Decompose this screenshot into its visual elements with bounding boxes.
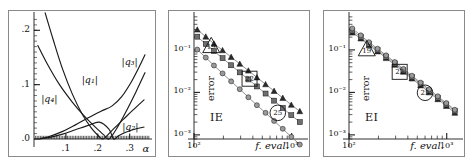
panel-c-xaxis-label: f. eval. [410,141,444,151]
panel-b-annotation-22: 22 [245,75,254,83]
panel-c-xtick-1: 10³ [440,142,453,150]
curve-label-q1: |q₁| [82,75,98,85]
panel-c-ytick-2: 10⁻³ [328,130,346,138]
panel-a-ytick-0: .0 [21,134,30,143]
panel-b-tag: IE [210,112,223,123]
panel-c-ytick-0: 10⁻¹ [328,45,346,53]
panel-c-tag: EI [365,112,378,123]
panel-b-annotation-19: 19 [207,43,216,51]
panel-a-xaxis-label: α [143,144,150,154]
panel-a-xtick-1: .2 [93,144,102,153]
panel-b-annotation-25: 25 [273,109,282,117]
panel-a-ytick-1: .1 [21,80,30,89]
panel-c-ytick-1: 10⁻² [328,87,346,95]
curve-label-q2: |q₂| [122,122,138,132]
curve-label-q3: |q₃| [122,57,138,67]
panel-a-ytick-2: .2 [21,25,30,34]
panel-c-annotation-22: 22 [395,68,404,76]
panel-c-yaxis-label: error [361,76,371,101]
panel-a-xtick-2: .3 [125,144,134,153]
panel-b-ytick-1: 10⁻² [173,87,191,95]
panel-c-ei-convergence: 192225 EI f. eval. error 10²10³10⁻¹10⁻²1… [315,0,470,165]
panel-a-xtick-0: .1 [62,144,71,153]
panel-b-xtick-1: 10³ [285,142,298,150]
panel-c-annotation-25: 25 [421,89,430,97]
panel-b-xaxis-label: f. eval. [255,141,289,151]
panel-c-annotation-19: 19 [362,47,371,55]
panel-b-xtick-0: 10² [187,142,200,150]
curve-label-q4: |q₄| [41,94,57,104]
panel-b-yaxis-label: error [206,76,216,101]
panel-b-ie-convergence: 192225 IE f. eval. error 10²10³10⁻¹10⁻²1… [160,0,315,165]
panel-b-ytick-2: 10⁻³ [173,130,191,138]
panel-c-xtick-0: 10² [342,142,355,150]
panel-a-amplitudes: |q₁| |q₂| |q₃| |q₄| α .1.2.3.0.1.2 [0,0,160,165]
panel-b-ytick-0: 10⁻¹ [173,45,191,53]
figure-three-panels: |q₁| |q₂| |q₃| |q₄| α .1.2.3.0.1.2 19222… [0,0,470,165]
